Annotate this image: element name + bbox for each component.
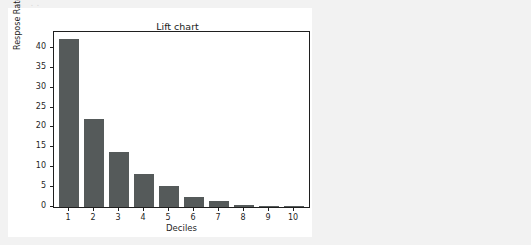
y-tick-label: 5: [41, 181, 46, 190]
y-tick-label: 30: [36, 82, 46, 91]
x-tick-label: 10: [283, 213, 303, 222]
lift-chart-figure: Lift chart Respose Rate(%) 0510152025303…: [8, 8, 312, 237]
bar-decile-2: [84, 119, 104, 207]
bar-decile-5: [159, 186, 179, 207]
bar-decile-4: [134, 174, 154, 207]
y-tick-label: 35: [36, 62, 46, 71]
x-axis-ticks: 12345678910: [53, 208, 310, 224]
x-tick-label: 8: [233, 213, 253, 222]
x-tick-mark: [118, 208, 119, 211]
x-tick-label: 4: [133, 213, 153, 222]
x-tick-mark: [143, 208, 144, 211]
y-tick-label: 25: [36, 102, 46, 111]
bar-decile-6: [184, 197, 204, 207]
bar-decile-7: [209, 201, 229, 207]
bar-decile-1: [59, 39, 79, 207]
x-tick-mark: [68, 208, 69, 211]
plot-area: [53, 31, 310, 208]
y-tick-label: 10: [36, 161, 46, 170]
x-tick-label: 9: [258, 213, 278, 222]
x-tick-label: 3: [108, 213, 128, 222]
x-tick-mark: [243, 208, 244, 211]
x-tick-mark: [293, 208, 294, 211]
bar-decile-10: [284, 206, 304, 207]
x-tick-mark: [218, 208, 219, 211]
x-tick-label: 1: [58, 213, 78, 222]
x-tick-label: 5: [158, 213, 178, 222]
x-tick-label: 6: [183, 213, 203, 222]
bar-series: [54, 32, 309, 207]
x-tick-mark: [268, 208, 269, 211]
x-axis-label: Deciles: [53, 223, 310, 233]
x-tick-mark: [93, 208, 94, 211]
bar-decile-9: [259, 206, 279, 207]
bar-decile-3: [109, 152, 129, 207]
x-tick-label: 7: [208, 213, 228, 222]
y-tick-label: 0: [41, 201, 46, 210]
x-tick-mark: [193, 208, 194, 211]
x-tick-label: 2: [83, 213, 103, 222]
y-axis-ticks: 0510152025303540: [8, 31, 53, 208]
bar-decile-8: [234, 205, 254, 207]
y-tick-label: 20: [36, 121, 46, 130]
y-tick-label: 15: [36, 141, 46, 150]
y-tick-label: 40: [36, 42, 46, 51]
chart-card: Lift chart Respose Rate(%) 0510152025303…: [8, 8, 312, 237]
x-tick-mark: [168, 208, 169, 211]
